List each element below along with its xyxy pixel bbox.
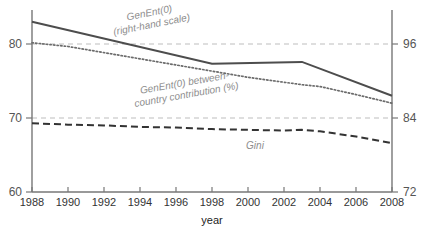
x-tick-label-5: 1998 xyxy=(200,196,224,208)
y-tick-label-left-1: 70 xyxy=(9,111,23,125)
x-tick-label-0: 1988 xyxy=(20,196,44,208)
y-tick-label-left-0: 80 xyxy=(9,37,23,51)
x-axis-ticks: 1988 1990 1992 1994 1996 1998 2000 2002 … xyxy=(20,187,404,208)
annotation-genent: GenEnt(0) (right-hand scale) xyxy=(110,0,191,37)
x-tick-label-10: 2008 xyxy=(380,196,404,208)
line-chart: 80 70 60 96 84 72 1988 1990 xyxy=(0,0,423,232)
axes xyxy=(32,10,392,192)
y-axis-left-ticks: 80 70 60 xyxy=(9,37,32,199)
chart-container: 80 70 60 96 84 72 1988 1990 xyxy=(0,0,423,232)
x-tick-label-2: 1992 xyxy=(92,196,116,208)
y-axis-right-ticks: 96 84 72 xyxy=(392,37,417,199)
x-axis-title: year xyxy=(201,214,223,226)
x-tick-label-1: 1990 xyxy=(56,196,80,208)
x-tick-label-4: 1996 xyxy=(164,196,188,208)
series-line-gini xyxy=(32,123,392,143)
x-tick-label-9: 2006 xyxy=(344,196,368,208)
x-tick-label-7: 2002 xyxy=(272,196,296,208)
annotation-between-country: GenEnt(0) between- country contribution … xyxy=(131,68,239,109)
x-tick-label-6: 2000 xyxy=(236,196,260,208)
annotation-gini: Gini xyxy=(246,140,265,151)
y-tick-label-right-1: 84 xyxy=(403,111,417,125)
y-tick-label-right-2: 72 xyxy=(403,185,417,199)
x-tick-label-8: 2004 xyxy=(308,196,332,208)
x-tick-label-3: 1994 xyxy=(128,196,152,208)
y-tick-label-right-0: 96 xyxy=(403,37,417,51)
